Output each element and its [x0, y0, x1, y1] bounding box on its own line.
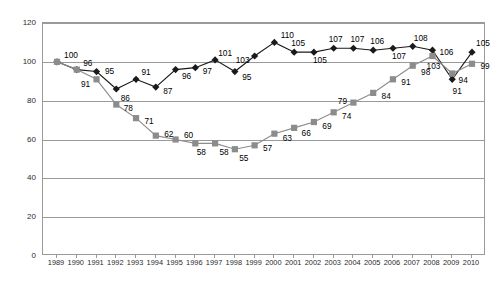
x-tick-1999: [254, 254, 255, 258]
x-tick-label-1997: 1997: [206, 258, 222, 267]
x-tick-1994: [155, 254, 156, 258]
x-tick-label-1994: 1994: [147, 258, 163, 267]
x-tick-2005: [372, 254, 373, 258]
data-label-gray-square-series-1991: 91: [81, 79, 90, 89]
data-label-gray-square-series-1994: 62: [164, 129, 173, 139]
x-tick-1990: [76, 254, 77, 258]
data-label-black-diamond-series-1999: 103: [236, 55, 250, 65]
marker-black-diamond-series-2003: [330, 45, 337, 52]
data-label-black-diamond-series-2001: 105: [291, 38, 305, 48]
data-label-gray-square-series-1997: 58: [219, 147, 228, 157]
x-tick-2004: [352, 254, 353, 258]
data-label-black-diamond-series-2004: 107: [351, 34, 365, 44]
x-tick-2008: [431, 254, 432, 258]
data-label-black-diamond-series-1994: 87: [163, 86, 172, 96]
x-tick-1992: [115, 254, 116, 258]
data-label-black-diamond-series-1993: 91: [141, 67, 150, 77]
x-tick-label-2003: 2003: [324, 258, 340, 267]
x-tick-1998: [234, 254, 235, 258]
marker-gray-square-series-1997: [212, 140, 218, 146]
data-label-gray-square-series-2003: 74: [342, 111, 351, 121]
marker-black-diamond-series-2001: [291, 49, 298, 56]
y-tick-label-80: 80: [10, 95, 36, 104]
data-label-black-diamond-series-2008: 106: [440, 47, 454, 57]
y-axis-labels: 020406080100120: [8, 22, 36, 255]
x-tick-2006: [392, 254, 393, 258]
x-tick-label-2001: 2001: [285, 258, 301, 267]
data-label-gray-square-series-2000: 63: [283, 133, 292, 143]
marker-black-diamond-series-2000: [271, 39, 278, 46]
data-label-black-diamond-series-1995: 96: [182, 71, 191, 81]
x-tick-label-1992: 1992: [107, 258, 123, 267]
marker-black-diamond-series-1993: [132, 76, 139, 83]
marker-gray-square-series-1991: [93, 76, 99, 82]
series-layer: [43, 23, 486, 256]
data-label-black-diamond-series-2003: 107: [329, 34, 343, 44]
x-tick-label-2006: 2006: [384, 258, 400, 267]
marker-gray-square-series-2003: [331, 109, 337, 115]
data-label-black-diamond-series-2002: 105: [313, 55, 327, 65]
data-label-gray-square-series-1989: 100: [64, 50, 78, 60]
data-label-gray-square-series-1999: 57: [263, 143, 272, 153]
y-tick-label-120: 120: [10, 18, 36, 27]
data-label-black-diamond-series-2009: 91: [453, 86, 462, 96]
data-label-gray-square-series-1993: 71: [144, 116, 153, 126]
marker-gray-square-series-2002: [311, 119, 317, 125]
x-tick-label-2009: 2009: [443, 258, 459, 267]
data-label-gray-square-series-2002: 69: [322, 121, 331, 131]
data-label-black-diamond-series-2007: 108: [414, 33, 428, 43]
x-tick-2002: [313, 254, 314, 258]
x-tick-label-2007: 2007: [403, 258, 419, 267]
data-label-black-diamond-series-1991: 95: [105, 66, 114, 76]
x-tick-label-1996: 1996: [186, 258, 202, 267]
marker-gray-square-series-1996: [192, 140, 198, 146]
y-tick-label-20: 20: [10, 212, 36, 221]
x-tick-2003: [333, 254, 334, 258]
marker-black-diamond-series-1996: [192, 64, 199, 71]
data-label-gray-square-series-1998: 55: [239, 153, 248, 163]
x-tick-label-1989: 1989: [48, 258, 64, 267]
marker-gray-square-series-1992: [113, 101, 119, 107]
data-label-gray-square-series-2010: 99: [480, 61, 489, 71]
chart-container: 020406080100120 958691879697101951031101…: [0, 0, 501, 297]
data-label-gray-square-series-2001: 66: [302, 128, 311, 138]
marker-gray-square-series-2009: [449, 70, 455, 76]
x-tick-2000: [273, 254, 274, 258]
x-tick-2009: [451, 254, 452, 258]
data-label-black-diamond-series-1996: 97: [203, 66, 212, 76]
marker-gray-square-series-1993: [133, 115, 139, 121]
x-tick-label-2005: 2005: [364, 258, 380, 267]
data-label-gray-square-series-2006: 91: [401, 77, 410, 87]
data-label-gray-square-series-2005: 84: [382, 91, 391, 101]
data-label-black-diamond-series-1997: 101: [218, 48, 232, 58]
marker-gray-square-series-2000: [271, 131, 277, 137]
x-tick-label-2004: 2004: [344, 258, 360, 267]
marker-black-diamond-series-2007: [409, 43, 416, 50]
marker-gray-square-series-2001: [291, 125, 297, 131]
marker-gray-square-series-2006: [390, 76, 396, 82]
marker-gray-square-series-1990: [74, 67, 80, 73]
data-label-black-diamond-series-2005: 106: [370, 36, 384, 46]
x-tick-2001: [293, 254, 294, 258]
data-label-black-diamond-series-2010: 105: [476, 38, 490, 48]
x-tick-label-1999: 1999: [245, 258, 261, 267]
x-tick-label-1995: 1995: [166, 258, 182, 267]
x-tick-label-2010: 2010: [463, 258, 479, 267]
marker-gray-square-series-2005: [370, 90, 376, 96]
y-tick-label-60: 60: [10, 134, 36, 143]
marker-black-diamond-series-2009: [449, 76, 456, 83]
x-tick-label-2008: 2008: [423, 258, 439, 267]
y-tick-label-40: 40: [10, 173, 36, 182]
x-tick-1997: [214, 254, 215, 258]
x-tick-label-2000: 2000: [265, 258, 281, 267]
marker-gray-square-series-2004: [350, 100, 356, 106]
x-axis-labels: 1989199019911992199319941995199619971998…: [42, 258, 485, 278]
y-tick-label-0: 0: [10, 251, 36, 260]
data-label-gray-square-series-1996: 58: [197, 147, 206, 157]
marker-gray-square-series-2008: [429, 53, 435, 59]
marker-black-diamond-series-2010: [468, 49, 475, 56]
x-tick-label-1991: 1991: [87, 258, 103, 267]
marker-gray-square-series-2007: [410, 63, 416, 69]
data-label-gray-square-series-2004: 79: [338, 96, 347, 106]
data-label-gray-square-series-1992: 78: [124, 103, 133, 113]
